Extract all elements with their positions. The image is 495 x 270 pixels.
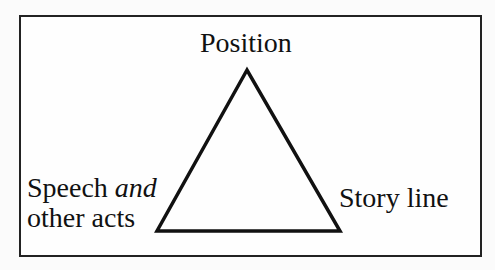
speech-text: Speech bbox=[27, 172, 115, 203]
and-emphasis: and bbox=[115, 172, 157, 203]
other-acts-text: other acts bbox=[27, 203, 157, 233]
vertex-label-story-line: Story line bbox=[339, 183, 449, 213]
vertex-label-speech-acts: Speech and other acts bbox=[27, 173, 157, 233]
vertex-label-position: Position bbox=[200, 28, 292, 58]
